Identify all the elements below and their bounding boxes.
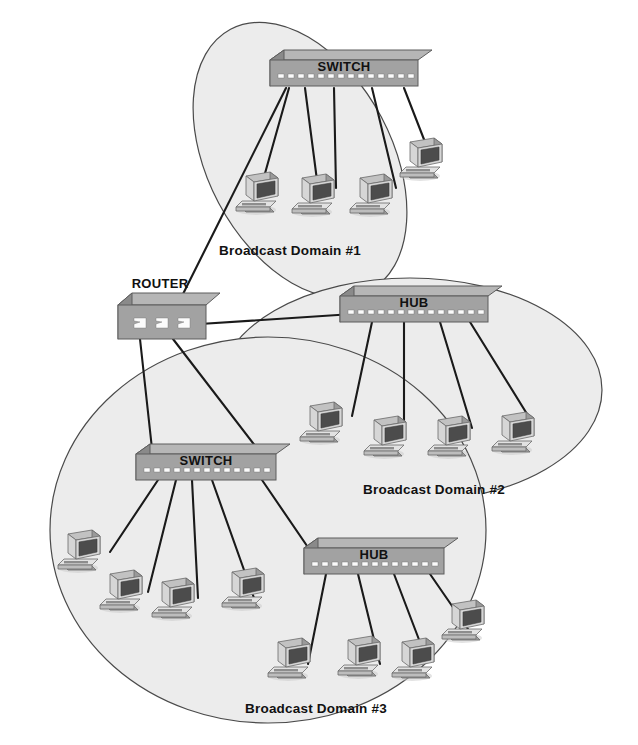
device-router[interactable]: ROUTER: [118, 276, 220, 339]
network-diagram: SWITCH HUB: [0, 0, 638, 745]
network-diagram-canvas: SWITCH HUB: [0, 0, 638, 745]
workstation-icon[interactable]: [400, 138, 442, 181]
domain-3-label: Broadcast Domain #3: [245, 701, 387, 716]
device-switch-2[interactable]: SWITCH: [136, 444, 290, 480]
router-label: ROUTER: [132, 276, 189, 291]
device-hub-2[interactable]: HUB: [304, 538, 458, 574]
device-hub-1[interactable]: HUB: [340, 286, 502, 322]
switch-1-label: SWITCH: [317, 59, 370, 74]
router-ports: [134, 318, 190, 328]
hub-1-label: HUB: [399, 295, 428, 310]
domain-1-label: Broadcast Domain #1: [219, 243, 361, 258]
hub-2-label: HUB: [359, 547, 388, 562]
switch-2-label: SWITCH: [179, 453, 232, 468]
domain-2-label: Broadcast Domain #2: [363, 482, 505, 497]
domain-regions: [50, 0, 602, 723]
device-switch-1[interactable]: SWITCH: [270, 50, 432, 86]
